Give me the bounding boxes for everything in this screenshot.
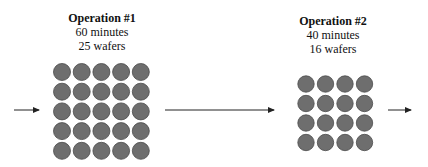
wafer xyxy=(54,64,71,81)
wafer xyxy=(356,134,372,150)
wafer xyxy=(298,134,314,150)
wafer xyxy=(356,76,372,92)
wafer xyxy=(132,142,149,159)
wafer xyxy=(54,103,71,120)
wafer xyxy=(356,115,372,131)
wafer xyxy=(298,95,314,111)
wafer xyxy=(337,134,353,150)
wafer xyxy=(73,103,90,120)
wafer xyxy=(317,76,333,92)
wafer xyxy=(337,76,353,92)
wafer xyxy=(132,83,149,100)
wafer xyxy=(54,83,71,100)
wafer xyxy=(73,123,90,140)
wafer xyxy=(132,123,149,140)
wafer xyxy=(113,142,130,159)
wafer xyxy=(73,142,90,159)
wafer xyxy=(337,95,353,111)
wafer xyxy=(298,115,314,131)
wafer xyxy=(337,115,353,131)
wafer xyxy=(356,95,372,111)
wafer xyxy=(54,142,71,159)
wafer xyxy=(113,83,130,100)
wafer xyxy=(113,64,130,81)
wafer xyxy=(113,103,130,120)
wafer xyxy=(132,64,149,81)
wafer xyxy=(317,95,333,111)
wafer xyxy=(113,123,130,140)
process-flow-diagram xyxy=(0,0,428,167)
wafer xyxy=(93,64,110,81)
wafer xyxy=(132,103,149,120)
wafer xyxy=(73,83,90,100)
operation-1-wafer-grid xyxy=(54,64,150,160)
wafer xyxy=(317,134,333,150)
wafer xyxy=(93,83,110,100)
wafer xyxy=(317,115,333,131)
wafer xyxy=(298,76,314,92)
wafer xyxy=(93,103,110,120)
wafer xyxy=(93,142,110,159)
operation-2-wafer-grid xyxy=(298,76,373,151)
wafer xyxy=(54,123,71,140)
wafer xyxy=(93,123,110,140)
wafer xyxy=(73,64,90,81)
